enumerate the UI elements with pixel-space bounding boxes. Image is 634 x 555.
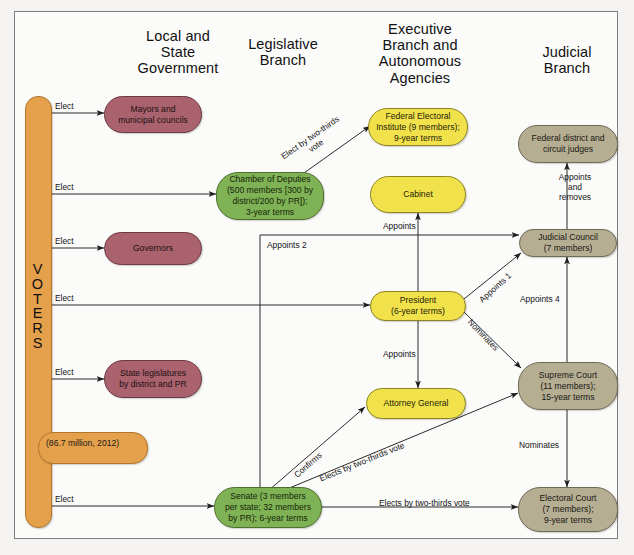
voters-letter: E: [25, 306, 50, 321]
node-attorney-general[interactable]: Attorney General: [366, 388, 466, 419]
voters-label: V O T E R S: [25, 262, 50, 351]
voters-letter: R: [25, 321, 50, 336]
column-header-judicial: Judicial Branch: [512, 44, 622, 76]
diagram-canvas: Local and State Government Legislative B…: [0, 0, 634, 555]
node-federal-district-and-circuit-judges[interactable]: Federal district and circuit judges: [518, 125, 618, 163]
edge-label-president-appoints-cabinet: Appoints: [383, 221, 416, 231]
column-header-executive: Executive Branch and Autonomous Agencies: [350, 21, 490, 86]
node-senate[interactable]: Senate (3 members per state; 32 members …: [214, 487, 322, 528]
edge-label-elect-governors: Elect: [55, 236, 74, 246]
voters-population-stub: [38, 432, 148, 464]
edge-label-elect-chamber: Elect: [55, 182, 74, 192]
edge-label-elect-state-legislatures: Elect: [55, 367, 74, 377]
node-governors[interactable]: Governors: [104, 232, 202, 265]
edge-label-elect-senate: Elect: [55, 494, 74, 504]
node-federal-electoral-institute[interactable]: Federal Electoral Institute (9 members);…: [368, 108, 468, 146]
node-supreme-court[interactable]: Supreme Court (11 members); 15-year term…: [518, 362, 618, 410]
voters-letter: O: [25, 277, 50, 292]
edge-label-senate-appoints-2: Appoints 2: [267, 240, 307, 250]
node-chamber-of-deputies[interactable]: Chamber of Deputies (500 members [300 by…: [216, 172, 324, 220]
edge-label-elect-president: Elect: [55, 293, 74, 303]
column-header-local-state: Local and State Government: [118, 28, 238, 77]
voters-letter: T: [25, 292, 50, 307]
voters-letter: S: [25, 336, 50, 351]
node-president[interactable]: President (6-year terms): [370, 291, 466, 321]
voters-population-note: (86.7 million, 2012): [46, 438, 146, 448]
node-cabinet[interactable]: Cabinet: [370, 176, 466, 213]
voters-letter: V: [25, 262, 50, 277]
node-state-legislatures[interactable]: State legislatures by district and PR: [104, 360, 202, 398]
edge-label-supreme-court-appoints-4: Appoints 4: [520, 294, 560, 304]
edge-label-senate-elects-electoral-court: Elects by two-thirds vote: [379, 498, 470, 508]
connector-layer: [0, 0, 634, 555]
edge-label-judicial-council-appoints-and-removes: Appoints and removes: [545, 172, 605, 202]
node-mayors-and-municipal-councils[interactable]: Mayors and municipal councils: [104, 96, 202, 133]
node-judicial-council[interactable]: Judicial Council (7 members): [519, 229, 617, 257]
edge-label-elect-mayors: Elect: [55, 101, 74, 111]
edge-label-supreme-court-nominates: Nominates: [519, 440, 559, 450]
column-header-legislative: Legislative Branch: [228, 36, 338, 68]
edge-label-president-appoints-attorney-general: Appoints: [383, 349, 416, 359]
node-electoral-court[interactable]: Electoral Court (7 members); 9-year term…: [518, 487, 618, 532]
